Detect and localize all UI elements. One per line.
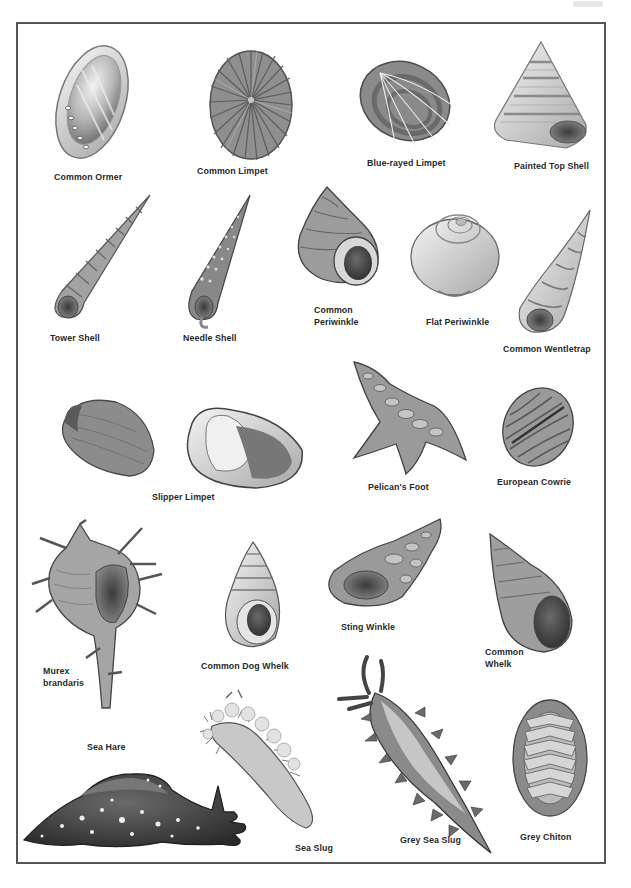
- common-wentletrap-illustration: [512, 208, 597, 336]
- common-periwinkle-label-line-2: Periwinkle: [314, 316, 369, 328]
- murex-brandaris-label-line-1: Murex: [43, 665, 98, 677]
- grey-chiton-illustration: [510, 696, 590, 821]
- flat-periwinkle-label: Flat Periwinkle: [426, 316, 489, 328]
- common-ormer-label: Common Ormer: [54, 171, 122, 183]
- murex-brandaris-label: Murex brandaris: [43, 665, 98, 689]
- sea-hare-label: Sea Hare: [87, 741, 126, 753]
- tower-shell-illustration: [40, 193, 155, 323]
- grey-sea-slug-illustration: [335, 653, 500, 858]
- common-whelk-illustration: [480, 530, 580, 655]
- murex-brandaris-label-line-2: brandaris: [43, 677, 98, 689]
- common-periwinkle-label-line-1: Common: [314, 304, 369, 316]
- slipper-limpet-illustration: [56, 392, 306, 492]
- european-cowrie-label: European Cowrie: [497, 476, 571, 488]
- european-cowrie-illustration: [498, 385, 578, 470]
- sting-winkle-label: Sting Winkle: [341, 621, 395, 633]
- grey-sea-slug-label: Grey Sea Slug: [400, 834, 461, 846]
- sea-slug-illustration: [198, 686, 323, 836]
- painted-top-shell-illustration: [486, 40, 596, 152]
- common-limpet-illustration: [205, 48, 297, 163]
- common-limpet-label: Common Limpet: [197, 165, 268, 177]
- painted-top-shell-label: Painted Top Shell: [514, 160, 589, 172]
- blue-rayed-limpet-illustration: [355, 55, 455, 147]
- pelicans-foot-label: Pelican's Foot: [368, 481, 429, 493]
- flat-periwinkle-illustration: [408, 207, 503, 302]
- common-wentletrap-label: Common Wentletrap: [503, 343, 591, 355]
- grey-chiton-label: Grey Chiton: [520, 831, 572, 843]
- common-dog-whelk-label: Common Dog Whelk: [201, 660, 289, 672]
- sea-slug-label: Sea Slug: [295, 842, 333, 854]
- page-number-mark: [573, 1, 603, 7]
- common-dog-whelk-illustration: [213, 540, 288, 655]
- pelicans-foot-illustration: [340, 356, 470, 478]
- common-ormer-illustration: [52, 40, 134, 165]
- common-periwinkle-label: Common Periwinkle: [314, 304, 369, 328]
- sting-winkle-illustration: [320, 515, 450, 615]
- blue-rayed-limpet-label: Blue-rayed Limpet: [367, 157, 446, 169]
- common-periwinkle-illustration: [292, 185, 387, 295]
- tower-shell-label: Tower Shell: [50, 332, 100, 344]
- slipper-limpet-label: Slipper Limpet: [152, 491, 215, 503]
- needle-shell-illustration: [180, 193, 255, 333]
- needle-shell-label: Needle Shell: [183, 332, 237, 344]
